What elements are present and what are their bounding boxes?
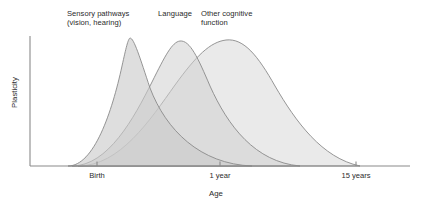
x-axis-title: Age [186,189,246,198]
curve-label-sensory-pathways: Sensory pathways (vision, hearing) [67,9,163,28]
y-axis-title: Plasticity [10,63,19,123]
curve-label-other-cognitive: Other cognitive function [201,9,273,28]
x-tick-label-one-year: 1 year [197,171,243,180]
plasticity-chart-figure: Sensory pathways (vision, hearing) Langu… [0,0,423,209]
x-tick-label-fifteen-years: 15 years [330,171,382,180]
x-tick-label-birth: Birth [74,171,120,180]
